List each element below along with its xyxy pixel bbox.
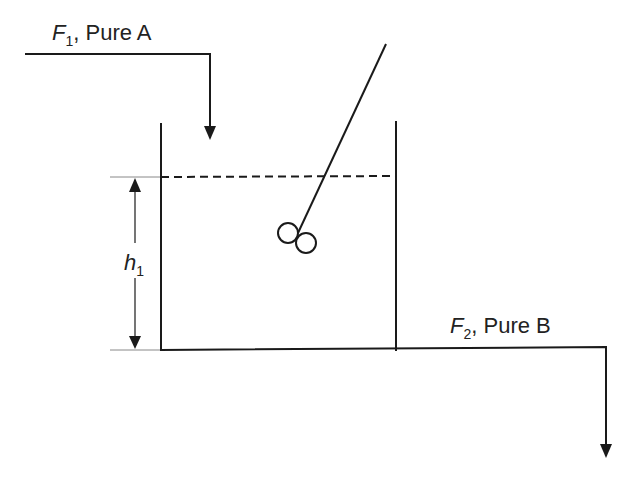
outlet-stream: F2, Pure B bbox=[161, 313, 612, 458]
mixing-tank-diagram: F1, Pure A h1 F2, Pure B bbox=[0, 0, 637, 481]
stirrer bbox=[278, 44, 386, 253]
inlet-arrow-icon bbox=[204, 126, 216, 140]
inlet-description: , Pure A bbox=[73, 20, 152, 45]
dimension-arrow-down-icon bbox=[129, 336, 141, 349]
stirrer-shaft bbox=[298, 44, 386, 233]
height-subscript: 1 bbox=[136, 263, 144, 279]
height-dimension: h1 bbox=[110, 177, 160, 350]
outlet-label: F2, Pure B bbox=[450, 313, 551, 342]
liquid-level-line bbox=[161, 176, 396, 177]
height-symbol: h bbox=[124, 250, 136, 275]
outlet-subscript: 2 bbox=[463, 326, 471, 342]
inlet-stream: F1, Pure A bbox=[25, 20, 216, 140]
inlet-subscript: 1 bbox=[65, 33, 73, 49]
height-label: h1 bbox=[124, 250, 144, 279]
outlet-pipe bbox=[161, 347, 606, 446]
inlet-label: F1, Pure A bbox=[52, 20, 152, 49]
outlet-arrow-icon bbox=[600, 444, 612, 458]
impeller-blade-left-icon bbox=[278, 223, 298, 243]
dimension-arrow-up-icon bbox=[129, 178, 141, 192]
outlet-description: , Pure B bbox=[471, 313, 550, 338]
inlet-pipe bbox=[25, 54, 210, 128]
impeller-blade-right-icon bbox=[296, 233, 316, 253]
